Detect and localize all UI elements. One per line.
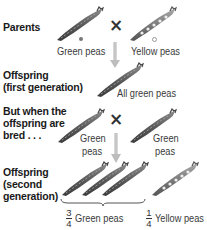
- caption-yellow-peas-second: Yellow peas: [155, 212, 204, 224]
- green-pea-pod-icon: [100, 161, 150, 197]
- caption-green-peas: Green peas: [57, 45, 105, 57]
- numerator: 1: [146, 208, 151, 217]
- label-generation: generation): [3, 190, 58, 202]
- caption-green-peas-right-2: peas: [155, 145, 175, 157]
- curly-brace: [60, 198, 146, 207]
- caption-all-green-peas: All green peas: [117, 87, 176, 99]
- caption-green-peas-second: Green peas: [75, 212, 123, 224]
- label-second: (second: [3, 178, 42, 190]
- denominator: 4: [146, 219, 151, 228]
- label-parents: Parents: [3, 21, 40, 33]
- green-seed-icon: [79, 37, 83, 41]
- label-offspring-second: Offspring: [3, 166, 48, 178]
- yellow-pea-pod-icon: [150, 161, 200, 197]
- label-offspring-first: Offspring: [3, 69, 48, 81]
- yellow-seed-icon: [152, 37, 157, 42]
- fraction-three-fourths: 3 4: [66, 208, 72, 228]
- cross-symbol: ×: [109, 17, 123, 34]
- cross-symbol: ×: [109, 111, 123, 128]
- denominator: 4: [66, 219, 71, 228]
- down-arrow-icon: [111, 133, 121, 163]
- fraction-one-fourth: 1 4: [146, 208, 152, 228]
- label-bred: bred . . .: [3, 129, 41, 141]
- caption-green-peas-left-1: Green: [80, 132, 106, 144]
- label-first-generation: (first generation): [3, 81, 83, 93]
- caption-green-peas-right-1: Green: [153, 132, 179, 144]
- caption-yellow-peas: Yellow peas: [131, 45, 180, 57]
- caption-green-peas-left-2: peas: [82, 145, 102, 157]
- numerator: 3: [66, 208, 71, 217]
